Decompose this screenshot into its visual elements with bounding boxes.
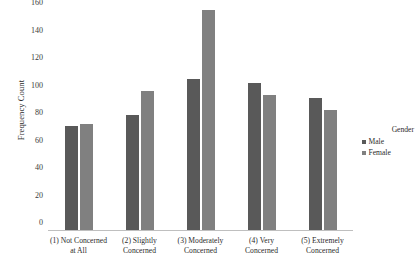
y-axis-tick-label: 140 xyxy=(3,27,43,35)
y-axis-tick-label: 160 xyxy=(3,0,43,7)
x-axis-line xyxy=(48,230,353,231)
y-axis-tick-label: 0 xyxy=(3,219,43,227)
y-axis-tick-label: 40 xyxy=(3,164,43,172)
x-axis-label: (1) Not Concernedat All xyxy=(48,236,109,255)
y-axis-tick-label: 120 xyxy=(3,54,43,62)
legend-item-label: Female xyxy=(369,147,391,158)
bar-male[interactable] xyxy=(309,98,322,230)
bar-female[interactable] xyxy=(324,110,337,230)
bar-group xyxy=(48,10,109,230)
bar-male[interactable] xyxy=(126,115,139,231)
plot-area: 020406080100120140160 xyxy=(48,10,353,231)
y-axis-tick-label: 100 xyxy=(3,82,43,90)
legend: Gender MaleFemale xyxy=(362,124,415,158)
legend-swatch-icon xyxy=(362,140,366,144)
y-axis-tick-label: 80 xyxy=(3,109,43,117)
bar-group xyxy=(109,10,170,230)
bar-groups xyxy=(48,10,353,230)
bar-female[interactable] xyxy=(263,95,276,230)
x-axis-label: (3) ModeratelyConcerned xyxy=(170,236,231,255)
y-axis-tick-label: 60 xyxy=(3,137,43,145)
bar-chart: Frequency Count 020406080100120140160 (1… xyxy=(0,0,415,270)
bar-female[interactable] xyxy=(80,124,93,230)
x-axis-label: (2) SlightlyConcerned xyxy=(109,236,170,255)
bar-male[interactable] xyxy=(65,126,78,231)
x-axis-label: (4) VeryConcerned xyxy=(231,236,292,255)
legend-swatch-icon xyxy=(362,151,366,155)
x-axis-labels: (1) Not Concernedat All(2) SlightlyConce… xyxy=(48,236,353,255)
cropped-title-remnant xyxy=(86,0,126,3)
legend-item-female[interactable]: Female xyxy=(362,147,415,158)
y-axis-tick-label: 20 xyxy=(3,192,43,200)
legend-item-male[interactable]: Male xyxy=(362,136,415,147)
legend-item-label: Male xyxy=(369,136,385,147)
legend-title: Gender xyxy=(362,124,415,135)
bar-group xyxy=(231,10,292,230)
bar-group xyxy=(292,10,353,230)
x-axis-label: (5) ExtremelyConcerned xyxy=(292,236,353,255)
bar-group xyxy=(170,10,231,230)
bar-male[interactable] xyxy=(187,79,200,230)
bar-male[interactable] xyxy=(248,83,261,230)
bar-female[interactable] xyxy=(141,91,154,230)
legend-items: MaleFemale xyxy=(362,136,415,158)
bar-female[interactable] xyxy=(202,10,215,230)
